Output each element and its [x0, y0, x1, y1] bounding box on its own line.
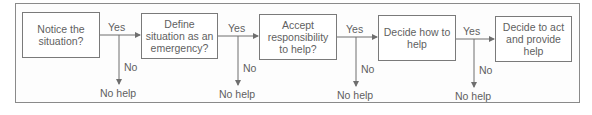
step-notice-situation: Notice the situation?: [22, 12, 100, 58]
no-label-3: No: [361, 63, 374, 75]
no-help-outcome-1: No help: [100, 87, 136, 99]
step-decide-how: Decide how to help: [378, 15, 456, 61]
step-label: Accept responsibility to help?: [262, 19, 334, 55]
no-help-outcome-2: No help: [219, 88, 255, 100]
yes-label-3: Yes: [346, 23, 363, 35]
step-define-emergency: Define situation as an emergency?: [141, 13, 218, 59]
step-label: Decide how to help: [381, 26, 453, 50]
yes-label-2: Yes: [228, 22, 245, 34]
no-label-4: No: [479, 64, 492, 76]
yes-label-4: Yes: [463, 25, 480, 37]
step-accept-responsibility: Accept responsibility to help?: [259, 14, 337, 60]
step-label: Notice the situation?: [25, 23, 97, 47]
no-help-outcome-3: No help: [337, 89, 373, 101]
no-label-1: No: [124, 61, 137, 73]
no-help-outcome-4: No help: [455, 90, 491, 102]
step-label: Decide to act and provide help: [498, 21, 569, 57]
no-label-2: No: [243, 62, 256, 74]
step-act-provide-help: Decide to act and provide help: [495, 16, 572, 62]
step-label: Define situation as an emergency?: [144, 18, 215, 54]
yes-label-1: Yes: [108, 21, 125, 33]
